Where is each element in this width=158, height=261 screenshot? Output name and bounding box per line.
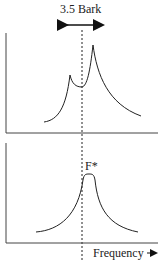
bottom-spectrum-curve bbox=[36, 174, 138, 232]
diagram-canvas bbox=[0, 0, 158, 261]
top-spectrum-curve bbox=[44, 45, 141, 122]
xaxis-label: Frequency bbox=[93, 246, 144, 261]
bandwidth-label: 3.5 Bark bbox=[60, 2, 101, 17]
peak-label: F* bbox=[85, 159, 98, 174]
